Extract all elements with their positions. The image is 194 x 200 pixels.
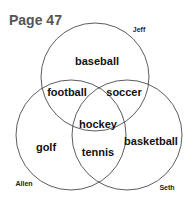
- label-seth: Seth: [159, 184, 174, 191]
- region-basketball: basketball: [124, 135, 178, 147]
- venn-diagram: [0, 0, 194, 200]
- circle-jeff: [41, 23, 149, 131]
- region-tennis: tennis: [82, 146, 114, 158]
- region-baseball: baseball: [75, 55, 119, 67]
- region-soccer: soccer: [106, 86, 141, 98]
- region-golf: golf: [36, 141, 56, 153]
- region-hockey: hockey: [79, 118, 117, 130]
- region-football: football: [47, 86, 87, 98]
- label-allen: Allen: [15, 180, 32, 187]
- label-jeff: Jeff: [133, 26, 145, 33]
